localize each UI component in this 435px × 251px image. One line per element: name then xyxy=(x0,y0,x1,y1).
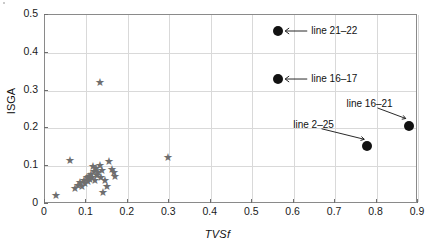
x-axis-tick xyxy=(168,199,169,203)
x-axis-tick xyxy=(417,199,418,203)
x-axis-tick xyxy=(251,199,252,203)
x-gridline xyxy=(418,15,419,202)
y-axis-tick xyxy=(44,165,48,166)
x-axis-tick-label: 0.7 xyxy=(314,205,354,217)
scatter-star-marker: ★ xyxy=(51,190,61,201)
x-axis-tick-label: 0.5 xyxy=(231,205,271,217)
x-gridline xyxy=(252,15,253,202)
x-gridline xyxy=(294,15,295,202)
x-gridline xyxy=(169,15,170,202)
y-gridline xyxy=(45,91,416,92)
scatter-star-marker: ★ xyxy=(102,180,112,191)
y-axis-tick-label: 0 xyxy=(4,196,38,208)
x-axis-tick xyxy=(127,199,128,203)
highlighted-line-marker xyxy=(273,26,283,36)
x-gridline xyxy=(211,15,212,202)
point-annotation-label: line 21–22 xyxy=(311,25,357,36)
scatter-star-marker: ★ xyxy=(163,151,173,162)
x-axis-tick-label: 0.2 xyxy=(107,205,147,217)
x-axis-tick-label: 0.8 xyxy=(356,205,396,217)
x-axis-tick-label: 0.1 xyxy=(65,205,105,217)
x-axis-tick xyxy=(85,199,86,203)
y-axis-tick xyxy=(44,52,48,53)
y-axis-tick-label: 0.4 xyxy=(4,45,38,57)
x-axis-tick xyxy=(334,199,335,203)
y-axis-tick-label: 0.3 xyxy=(4,83,38,95)
x-axis-tick-label: 0.6 xyxy=(273,205,313,217)
x-axis-tick-label: 0.9 xyxy=(397,205,435,217)
x-axis-tick xyxy=(376,199,377,203)
highlighted-line-marker xyxy=(404,121,414,131)
x-axis-title: TVSf xyxy=(0,228,435,240)
point-annotation-label: line 2–25 xyxy=(293,119,334,130)
highlighted-line-marker xyxy=(273,74,283,84)
scatter-star-marker: ★ xyxy=(65,154,75,165)
point-annotation-label: line 16–21 xyxy=(346,98,392,109)
y-axis-tick-label: 0.2 xyxy=(4,120,38,132)
highlighted-line-marker xyxy=(362,141,372,151)
y-axis-tick xyxy=(44,127,48,128)
y-gridline xyxy=(45,128,416,129)
y-axis-tick xyxy=(44,90,48,91)
x-gridline xyxy=(335,15,336,202)
x-axis-tick-label: 0.4 xyxy=(190,205,230,217)
y-axis-tick-label: 0.1 xyxy=(4,158,38,170)
scatter-star-marker: ★ xyxy=(110,170,120,181)
y-axis-tick-label: 0.5 xyxy=(4,7,38,19)
y-axis-tick xyxy=(44,203,48,204)
y-gridline xyxy=(45,53,416,54)
x-axis-tick xyxy=(210,199,211,203)
x-axis-tick xyxy=(293,199,294,203)
scatter-chart-figure: ISGA TVSf 00.10.20.30.40.50.60.70.80.900… xyxy=(0,0,435,251)
point-annotation-label: line 16–17 xyxy=(311,73,357,84)
x-gridline xyxy=(128,15,129,202)
image-speck-artifact xyxy=(3,2,5,4)
scatter-star-marker: ★ xyxy=(95,77,105,88)
x-axis-tick-label: 0.3 xyxy=(148,205,188,217)
y-axis-tick xyxy=(44,14,48,15)
